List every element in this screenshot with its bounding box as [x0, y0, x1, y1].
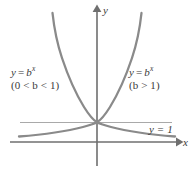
y-axis-arrowhead-icon: [93, 5, 102, 13]
decaying-equals: =: [18, 66, 24, 78]
decaying-lhs: y: [11, 66, 16, 78]
horizontal-line-label: y = 1: [149, 123, 173, 136]
annotation-growing-equation: y=bx: [129, 66, 160, 79]
x-axis-label: x: [183, 136, 188, 148]
growing-exponent: x: [150, 64, 153, 73]
annotation-decaying-equation: y=bx: [11, 66, 59, 79]
growing-lhs: y: [129, 66, 134, 78]
annotation-decaying-condition: (0 < b < 1): [11, 79, 59, 92]
annotation-decaying-curve: y=bx (0 < b < 1): [11, 66, 59, 92]
y-equals-one-text: y = 1: [149, 123, 173, 135]
growing-equals: =: [136, 66, 142, 78]
annotation-growing-condition: (b > 1): [129, 79, 160, 92]
exponential-function-figure: y x y = 1 y=bx (0 < b < 1) y=bx (b > 1): [0, 0, 194, 171]
y-axis-label: y: [103, 4, 108, 16]
decaying-exponent: x: [32, 64, 35, 73]
annotation-growing-curve: y=bx (b > 1): [129, 66, 160, 92]
